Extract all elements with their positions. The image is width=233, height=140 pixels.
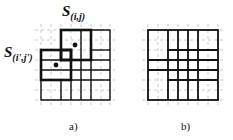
point-s-i-prime-j-prime (54, 63, 59, 68)
point-s-ij (73, 43, 78, 48)
overlap-square (61, 50, 71, 60)
panel-a-s-boxes (41, 30, 91, 80)
panel-a-dashed-grid (35, 24, 115, 108)
caption-b: b) (181, 120, 190, 132)
caption-a: a) (69, 120, 78, 132)
label-s-ij: S(i,j) (62, 3, 85, 22)
label-s-i-prime-j-prime-sub: (i',j') (12, 52, 32, 63)
panel-b-partition (148, 30, 218, 100)
label-s-i-prime-j-prime: S(i',j') (4, 44, 33, 63)
panel-a-partition (41, 30, 110, 100)
label-s-ij-sub: (i,j) (70, 11, 85, 22)
panel-b-dashed-grid (142, 24, 224, 108)
diagram-canvas (0, 0, 233, 140)
